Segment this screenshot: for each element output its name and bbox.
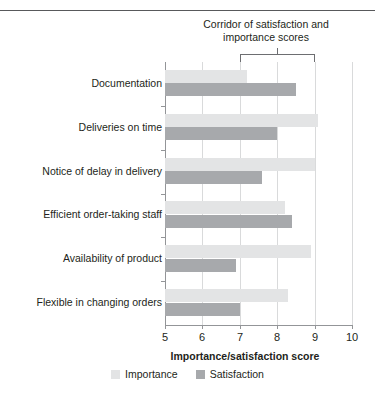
- bar-importance-3: [165, 201, 285, 214]
- gridline-9: [315, 62, 316, 325]
- y-tick-3: [161, 194, 165, 195]
- gridline-7: [240, 62, 241, 325]
- category-label-1: Deliveries on time: [79, 121, 162, 133]
- category-label-2: Notice of delay in delivery: [42, 165, 162, 177]
- corridor-bracket: [240, 54, 315, 62]
- x-axis-line: [165, 325, 353, 326]
- x-tick-8: [277, 325, 278, 329]
- bar-satisfaction-2: [165, 171, 262, 184]
- legend-label-importance: Importance: [125, 368, 178, 380]
- bar-importance-1: [165, 114, 318, 127]
- y-tick-4: [161, 237, 165, 238]
- category-label-4: Availability of product: [63, 252, 162, 264]
- bar-importance-0: [165, 70, 247, 83]
- x-tick-label-8: 8: [267, 331, 287, 343]
- legend-item-importance: Importance: [111, 368, 178, 380]
- bar-satisfaction-1: [165, 127, 277, 140]
- bar-chart: Corridor of satisfaction and importance …: [0, 0, 375, 400]
- bar-importance-5: [165, 289, 288, 302]
- corridor-annotation: Corridor of satisfaction and importance …: [178, 18, 354, 44]
- category-label-5: Flexible in changing orders: [37, 296, 163, 308]
- x-tick-7: [240, 325, 241, 329]
- bar-satisfaction-0: [165, 83, 296, 96]
- bar-satisfaction-4: [165, 259, 236, 272]
- x-tick-label-9: 9: [305, 331, 325, 343]
- x-tick-6: [202, 325, 203, 329]
- x-tick-label-7: 7: [230, 331, 250, 343]
- chart-legend: Importance Satisfaction: [0, 368, 375, 380]
- category-label-0: Documentation: [91, 77, 162, 89]
- y-tick-5: [161, 281, 165, 282]
- legend-label-satisfaction: Satisfaction: [210, 368, 264, 380]
- corridor-bracket-stem: [277, 48, 278, 55]
- category-label-3: Efficient order-taking staff: [43, 208, 162, 220]
- y-tick-2: [161, 150, 165, 151]
- legend-swatch-importance: [111, 370, 120, 379]
- bar-importance-2: [165, 158, 315, 171]
- x-tick-10: [352, 325, 353, 329]
- corridor-annotation-line2: importance scores: [178, 31, 354, 44]
- x-tick-9: [315, 325, 316, 329]
- gridline-8: [277, 62, 278, 325]
- legend-item-satisfaction: Satisfaction: [196, 368, 264, 380]
- y-axis-line: [165, 62, 166, 325]
- legend-swatch-satisfaction: [196, 370, 205, 379]
- x-tick-5: [165, 325, 166, 329]
- bar-satisfaction-3: [165, 215, 292, 228]
- x-tick-label-5: 5: [155, 331, 175, 343]
- gridline-6: [202, 62, 203, 325]
- x-axis-title: Importance/satisfaction score: [120, 350, 370, 362]
- x-tick-label-10: 10: [342, 331, 362, 343]
- y-tick-1: [161, 106, 165, 107]
- bar-satisfaction-5: [165, 303, 240, 316]
- corridor-annotation-line1: Corridor of satisfaction and: [178, 18, 354, 31]
- bar-importance-4: [165, 245, 311, 258]
- gridline-10: [352, 62, 353, 325]
- x-tick-label-6: 6: [192, 331, 212, 343]
